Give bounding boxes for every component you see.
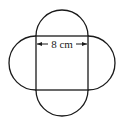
- top-semicircle: [36, 10, 88, 36]
- dimension-label: 8 cm: [51, 38, 73, 50]
- right-semicircle: [88, 36, 115, 90]
- left-semicircle: [9, 36, 36, 90]
- diagram: 8 cm: [0, 0, 118, 123]
- bottom-semicircle: [36, 90, 88, 116]
